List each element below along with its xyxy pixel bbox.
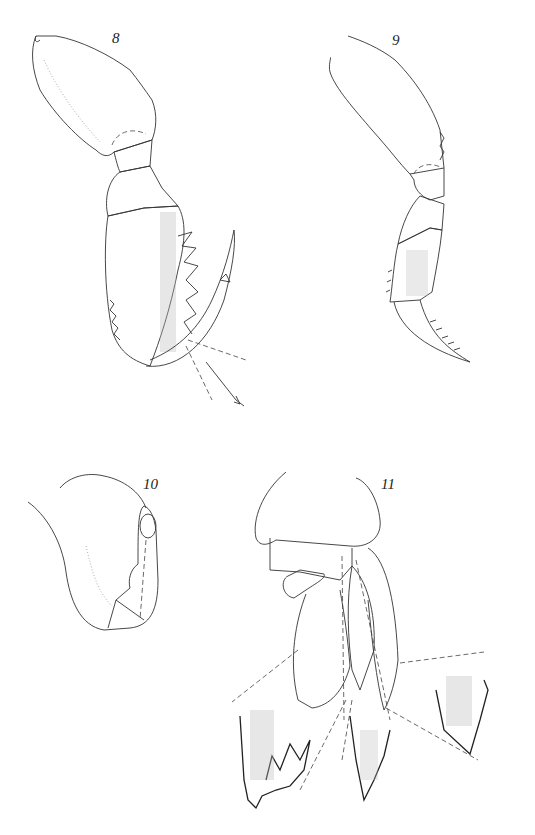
line-drawings xyxy=(0,0,535,835)
figure-11-drawing xyxy=(232,472,488,808)
figure-8-drawing xyxy=(33,36,246,406)
figure-10-drawing xyxy=(28,475,158,631)
figure-plate: 8 9 10 11 xyxy=(0,0,535,835)
figure-9-drawing xyxy=(329,36,470,362)
